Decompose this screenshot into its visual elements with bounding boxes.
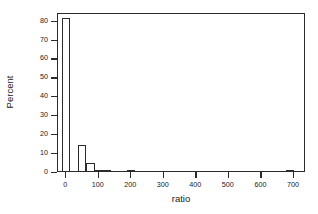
x-axis-tick [65,172,66,178]
y-axis-tick-label: 70 [40,36,48,43]
x-axis-tick [293,172,294,178]
x-axis-tick [98,172,99,178]
x-axis-tick [260,172,261,178]
x-axis-title: ratio [172,193,190,204]
x-axis-tick-label: 400 [189,181,201,188]
x-axis-tick-label: 700 [287,181,299,188]
y-axis-tick-label: 40 [40,93,48,100]
histogram-bar [286,170,294,171]
y-axis-title: Percent [4,76,15,109]
y-axis-tick-label: 60 [40,55,48,62]
y-axis-tick-label: 80 [40,17,48,24]
x-axis-tick [130,172,131,178]
y-axis-tick-label: 50 [40,74,48,81]
x-axis-tick [163,172,164,178]
histogram-bar [127,170,135,171]
y-axis-tick-label: 10 [40,149,48,156]
x-axis-tick [195,172,196,178]
plot-frame [57,13,305,172]
x-axis-tick-label: 0 [63,181,67,188]
histogram-bar [95,170,103,171]
histogram-chart: Percent 01020304050607080 ratio 01002003… [0,0,318,214]
y-axis-tick-label: 30 [40,112,48,119]
histogram-bar [86,163,94,171]
histogram-bar [62,18,70,171]
histogram-bar [78,145,86,171]
x-axis-tick-label: 200 [124,181,136,188]
x-axis: ratio 0100200300400500600700 [0,172,318,214]
x-axis-tick-label: 500 [222,181,234,188]
x-axis-tick [228,172,229,178]
histogram-bar [103,170,111,171]
y-axis-tick-label: 20 [40,131,48,138]
plot-area [58,14,304,171]
x-axis-tick-label: 300 [157,181,169,188]
x-axis-tick-label: 100 [92,181,104,188]
x-axis-tick-label: 600 [254,181,266,188]
